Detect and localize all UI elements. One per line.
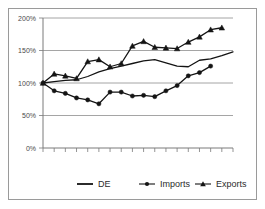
marker-imports-10: [141, 93, 145, 97]
gridlines: [43, 18, 233, 116]
series-imports: [41, 64, 213, 106]
marker-imports-9: [130, 94, 134, 98]
marker-imports-13: [175, 84, 179, 88]
chart-figure-frame: 200% 150% 100% 50% 0% DEImportsExports: [8, 8, 257, 200]
legend-item-de[interactable]: DE: [77, 179, 111, 189]
legend-item-exports[interactable]: Exports: [195, 179, 247, 189]
legend-label-imports: Imports: [160, 179, 191, 189]
marker-imports-6: [97, 102, 101, 106]
series-line-de: [43, 52, 233, 83]
marker-imports-8: [119, 90, 123, 94]
legend-item-imports[interactable]: Imports: [139, 179, 191, 189]
y-axis-label-50: 50%: [22, 112, 36, 119]
series-line-exports: [43, 28, 222, 83]
marker-imports-4: [74, 96, 78, 100]
marker-imports-16: [209, 64, 213, 68]
marker-imports-11: [153, 95, 157, 99]
y-axis-label-150: 150%: [18, 47, 36, 54]
legend-label-de: DE: [98, 179, 111, 189]
marker-imports-14: [186, 74, 190, 78]
marker-imports-5: [86, 98, 90, 102]
series-exports: [40, 25, 224, 85]
y-axis-label-0: 0%: [26, 145, 36, 152]
marker-exports-15: [197, 34, 203, 39]
y-axis-label-200: 200%: [18, 15, 36, 22]
series-line-imports: [43, 66, 211, 104]
legend-circle-icon: [145, 182, 149, 186]
marker-exports-10: [141, 39, 147, 44]
marker-imports-7: [108, 90, 112, 94]
series-de: [43, 52, 233, 83]
legend-label-exports: Exports: [216, 179, 247, 189]
data-series-layer: [40, 25, 233, 106]
chart-container: 200% 150% 100% 50% 0% DEImportsExports: [0, 0, 265, 209]
marker-imports-2: [52, 89, 56, 93]
marker-imports-15: [197, 71, 201, 75]
chart-legend: DEImportsExports: [77, 179, 247, 189]
y-axis-label-100: 100%: [18, 80, 36, 87]
x-tickmarks: [43, 148, 233, 152]
marker-imports-3: [63, 91, 67, 95]
marker-imports-12: [164, 89, 168, 93]
line-chart-plot: 200% 150% 100% 50% 0% DEImportsExports: [9, 9, 256, 199]
